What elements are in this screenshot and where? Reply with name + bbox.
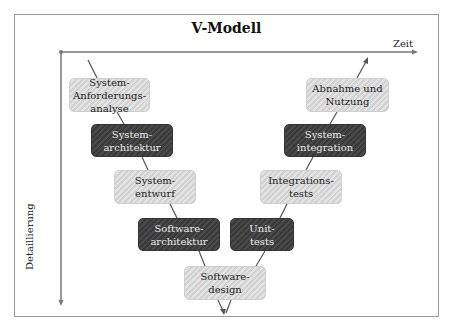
- box-integrationstests: Integrations- tests: [260, 170, 342, 204]
- x-axis-label: Zeit: [393, 38, 413, 49]
- box-softwarearchitektur: Software- architektur: [138, 218, 220, 251]
- detail-axis-arrow-icon: [59, 300, 64, 306]
- box-softwaredesign: Software- design: [184, 266, 266, 300]
- box-unittests: Unit- tests: [230, 218, 294, 251]
- y-axis-label: Detaillierung: [24, 203, 35, 270]
- time-axis-arrow-icon: [412, 50, 418, 55]
- box-abnahme-und-nutzung: Abnahme und Nutzung: [306, 78, 389, 112]
- box-systemintegration: System- integration: [284, 124, 366, 157]
- box-systementwurf: System- entwurf: [114, 170, 196, 204]
- box-system-anforderungsanalyse: System- Anforderungs- analyse: [69, 78, 150, 112]
- box-systemarchitektur: System- architektur: [91, 124, 173, 157]
